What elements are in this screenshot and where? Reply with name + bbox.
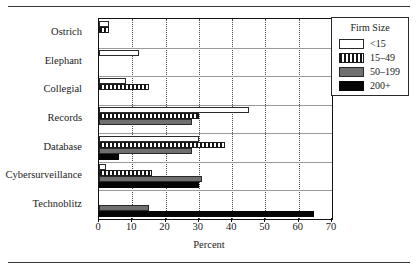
bar-cybersurveillance-200+ (99, 182, 199, 188)
y-axis-label-elephant: Elephant (45, 55, 82, 66)
top-rule (8, 6, 410, 7)
x-tick-label-70: 70 (326, 221, 337, 232)
bottom-rule (8, 262, 410, 263)
legend-item-<15[interactable]: <15 (339, 38, 386, 49)
y-axis-label-records: Records (48, 112, 82, 123)
bar-group-ostrich (99, 19, 332, 48)
y-axis-label-collegial: Collegial (44, 83, 83, 94)
legend-label: 15–49 (370, 52, 395, 63)
legend-title: Firm Size (332, 22, 408, 33)
y-axis-label-technoblitz: Technoblitz (33, 198, 82, 209)
y-axis-label-database: Database (44, 141, 82, 152)
y-axis-label-ostrich: Ostrich (51, 26, 82, 37)
bar-group-database (99, 133, 332, 162)
plot-area (98, 18, 333, 220)
chart-legend: Firm Size <1515–4950–199200+ (331, 17, 409, 96)
bar-group-elephant (99, 48, 332, 77)
x-tick-label-20: 20 (159, 221, 170, 232)
legend-swatch-icon (339, 53, 364, 63)
bar-database-200+ (99, 154, 119, 160)
legend-item-1549[interactable]: 15–49 (339, 52, 395, 63)
bar-collegial-1549 (99, 84, 149, 90)
bar-ostrich-1549 (99, 27, 109, 33)
legend-item-200+[interactable]: 200+ (339, 80, 391, 91)
x-tick-label-10: 10 (126, 221, 137, 232)
x-tick-label-30: 30 (193, 221, 204, 232)
x-axis-title: Percent (0, 239, 418, 250)
legend-label: <15 (370, 38, 386, 49)
x-tick-label-60: 60 (292, 221, 303, 232)
bar-technoblitz-200+ (99, 211, 314, 217)
bar-elephant-<15 (99, 50, 139, 56)
bar-group-technoblitz (99, 190, 332, 219)
legend-label: 50–199 (370, 66, 400, 77)
bar-group-records (99, 105, 332, 134)
bar-group-collegial (99, 76, 332, 105)
bar-group-cybersurveillance (99, 162, 332, 191)
legend-swatch-icon (339, 39, 364, 49)
legend-swatch-icon (339, 67, 364, 77)
legend-item-50199[interactable]: 50–199 (339, 66, 400, 77)
x-tick-label-40: 40 (226, 221, 237, 232)
legend-label: 200+ (370, 80, 391, 91)
y-axis-label-cybersurveillance: Cybersurveillance (6, 169, 82, 180)
bar-records-50199 (99, 119, 192, 125)
legend-swatch-icon (339, 81, 364, 91)
x-tick-label-0: 0 (95, 221, 100, 232)
x-tick-label-50: 50 (259, 221, 270, 232)
